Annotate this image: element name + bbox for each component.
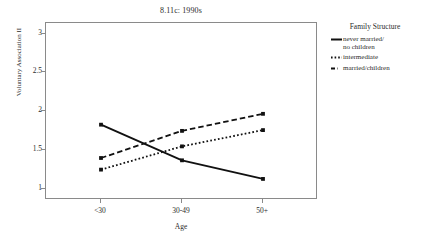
x-axis-title: Age — [45, 222, 317, 231]
x-tick-label-30-49: 30-49 — [158, 206, 204, 215]
y-tick-label-1_5: 1.5 — [20, 145, 42, 153]
series-line-0 — [101, 125, 263, 179]
data-point-0-2 — [261, 177, 265, 181]
line-solid-icon — [331, 35, 342, 44]
y-tick-label-1: 1 — [20, 184, 42, 192]
data-point-1-2 — [261, 128, 265, 132]
data-point-0-0 — [99, 123, 103, 127]
x-tick-mark-2 — [262, 199, 263, 203]
chart-figure: 8.11c: 1990s 3 2.5 2 1.5 1 Voluntary Ass… — [0, 0, 421, 244]
y-tick-label-2: 2 — [20, 106, 42, 114]
y-tick-label-2_5: 2.5 — [20, 67, 42, 75]
legend-label-intermediate: intermediate — [343, 53, 378, 61]
x-tick-mark-0 — [100, 199, 101, 203]
legend-title: Family Structure — [335, 22, 415, 31]
legend-label-married-children: married/children — [343, 64, 390, 72]
line-dotted-icon — [331, 53, 342, 62]
x-tick-label-50plus: 50+ — [239, 206, 285, 215]
plot-lines — [46, 23, 318, 200]
legend-item-intermediate[interactable]: intermediate — [331, 53, 419, 62]
legend-item-married-children[interactable]: married/children — [331, 64, 419, 73]
line-dashed-icon — [331, 64, 342, 73]
y-tick-label-3: 3 — [20, 29, 42, 37]
y-axis-title: Voluntary Association II — [15, 0, 23, 127]
data-point-1-1 — [180, 144, 184, 148]
x-tick-mark-1 — [181, 199, 182, 203]
legend-label-never-married: never married/ no children — [343, 35, 384, 51]
data-point-0-1 — [180, 158, 184, 162]
data-point-2-2 — [261, 112, 265, 116]
data-point-1-0 — [99, 168, 103, 172]
chart-title: 8.11c: 1990s — [45, 6, 317, 15]
x-tick-label-under30: <30 — [77, 206, 123, 215]
data-point-2-0 — [99, 156, 103, 160]
plot-area — [45, 22, 317, 199]
legend-item-never-married[interactable]: never married/ no children — [331, 35, 419, 51]
data-point-2-1 — [180, 129, 184, 133]
legend: Family Structure never married/ no child… — [331, 22, 419, 75]
